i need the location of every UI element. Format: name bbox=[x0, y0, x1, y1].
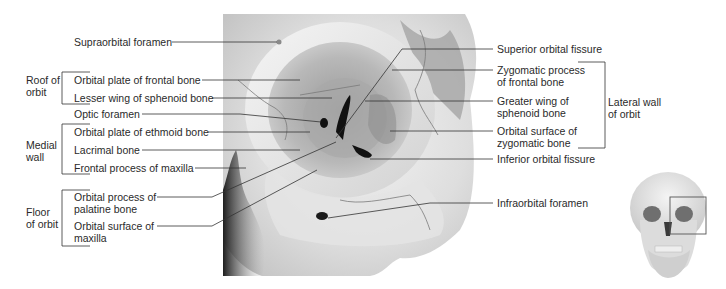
skull-thumbnail bbox=[0, 0, 726, 289]
